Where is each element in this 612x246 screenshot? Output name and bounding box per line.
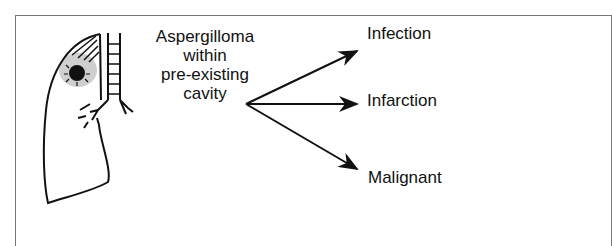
- source-label-line: Aspergilloma: [145, 27, 265, 46]
- source-label: Aspergilloma within pre-existing cavity: [145, 27, 265, 103]
- lung-illustration-icon: [44, 33, 133, 203]
- arrow-to-malignant: [246, 104, 357, 169]
- source-label-line: within: [145, 46, 265, 65]
- source-label-line: cavity: [145, 84, 265, 103]
- outcome-malignant: Malignant: [368, 168, 442, 188]
- outcome-infarction: Infarction: [367, 91, 437, 111]
- source-label-line: pre-existing: [145, 65, 265, 84]
- outcome-infection: Infection: [367, 24, 431, 44]
